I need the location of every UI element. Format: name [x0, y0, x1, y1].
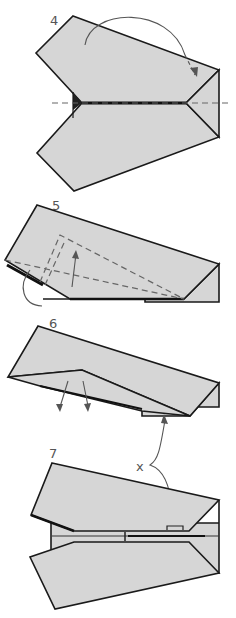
step-4: 4: [36, 13, 232, 191]
step-6-label: 6: [49, 316, 57, 331]
step-4-bottom-wing: [37, 103, 219, 191]
step-5-wing: [5, 205, 219, 299]
step-7-bottom-wing: [30, 542, 219, 609]
step-7: 7: [30, 446, 219, 609]
step-4-label: 4: [50, 13, 58, 28]
callout-label: x: [136, 459, 144, 474]
step-6: 6: [8, 316, 219, 416]
folding-diagram: 4 5 6: [0, 0, 236, 618]
step-7-label: 7: [49, 446, 57, 461]
step-4-top-wing: [36, 16, 219, 103]
step-7-top-wing: [31, 463, 219, 531]
step-5: 5: [5, 198, 219, 306]
